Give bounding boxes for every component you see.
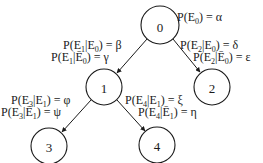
node-2: 2 (194, 69, 230, 105)
label-p-e2-given-not-e0: P(E2|Ē0) = ε (193, 50, 251, 66)
node-4-label: 4 (154, 139, 161, 154)
node-2-label: 2 (209, 81, 216, 96)
node-0: 0 (141, 6, 179, 44)
label-p-e3-given-not-e1: P(E3|Ē1) = ψ (1, 105, 61, 121)
node-3-label: 3 (46, 140, 53, 155)
node-4: 4 (139, 127, 175, 163)
node-0-label: 0 (157, 20, 164, 35)
probability-tree-diagram: 0 1 2 3 4 P(E0) = α P(E1|E0) = β P(E1|Ē0… (0, 0, 263, 163)
node-3: 3 (31, 128, 67, 163)
node-1-label: 1 (101, 81, 108, 96)
node-1: 1 (86, 69, 122, 105)
label-p-e1-given-not-e0: P(E1|Ē0) = γ (51, 50, 109, 66)
label-p-e0: P(E0) = α (177, 10, 223, 26)
label-p-e4-given-not-e1: P(E4|Ē1) = η (138, 105, 197, 121)
